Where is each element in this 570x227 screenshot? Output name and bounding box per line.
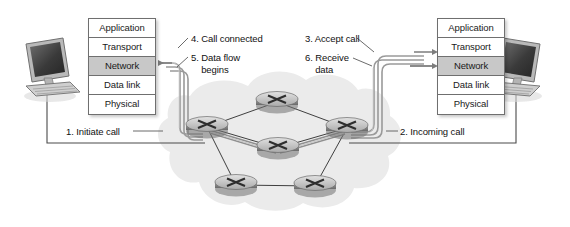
- receiving-host-protocol-stack: Application Transport Network Data link …: [437, 18, 505, 115]
- stack-left-layer-data-link[interactable]: Data link: [89, 76, 155, 95]
- stack-right-layer-network[interactable]: Network: [438, 57, 504, 76]
- router-r-left: [186, 117, 228, 139]
- step-label-1-initiate-call: 1. Initiate call: [66, 126, 120, 138]
- stack-left-layer-physical[interactable]: Physical: [89, 95, 155, 114]
- stack-left-layer-application[interactable]: Application: [89, 19, 155, 38]
- stack-right-layer-transport[interactable]: Transport: [438, 38, 504, 57]
- stack-right-layer-data-link[interactable]: Data link: [438, 76, 504, 95]
- stack-right-layer-application[interactable]: Application: [438, 19, 504, 38]
- sending-host-computer: [24, 38, 80, 102]
- step-label-2-incoming-call: 2. Incoming call: [400, 126, 464, 138]
- step-label-6-receive-data: 6. Receive data: [305, 52, 349, 76]
- router-r-bottom-right: [294, 176, 336, 198]
- router-r-bottom-left: [215, 175, 257, 197]
- step-label-3-accept-call: 3. Accept call: [305, 33, 360, 45]
- stack-right-layer-physical[interactable]: Physical: [438, 95, 504, 114]
- stack-left-layer-transport[interactable]: Transport: [89, 38, 155, 57]
- router-r-center: [257, 138, 299, 160]
- sending-host-protocol-stack: Application Transport Network Data link …: [88, 18, 156, 115]
- router-r-right: [326, 118, 368, 140]
- step-label-5-data-flow-begins: 5. Data flow begins: [191, 52, 240, 76]
- network-call-setup-diagram: Application Transport Network Data link …: [0, 0, 570, 227]
- step-label-4-call-connected: 4. Call connected: [191, 33, 263, 45]
- router-r-top: [256, 92, 298, 114]
- stack-left-layer-network[interactable]: Network: [89, 57, 155, 76]
